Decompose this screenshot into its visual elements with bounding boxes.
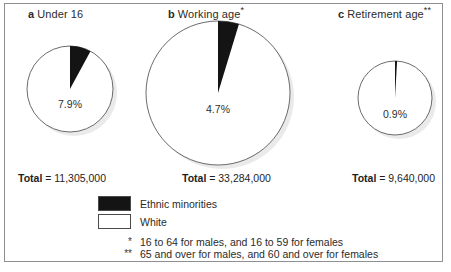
panel-title-text-c: Retirement age (347, 8, 424, 20)
figure-root: aUnder 16 7.9% Total = 11,305,000 bWorki… (0, 0, 451, 272)
pie-svg-c (356, 59, 440, 143)
footnote-mark-1: * (108, 236, 132, 247)
total-key-a: Total (18, 172, 42, 184)
pie-chart-a (25, 44, 119, 138)
panel-letter-a: a (28, 8, 34, 20)
total-label-a: Total = 11,305,000 (18, 172, 106, 184)
total-key-c: Total (352, 172, 376, 184)
footnote-text-1: 16 to 64 for males, and 16 to 59 for fem… (140, 236, 343, 248)
legend-label-ethnic-minorities: Ethnic minorities (140, 198, 217, 210)
pie-chart-b (144, 19, 298, 173)
pie-pct-label-a: 7.9% (40, 98, 100, 110)
legend-label-white: White (140, 216, 167, 228)
legend-swatch-ethnic-minorities (98, 196, 131, 211)
pie-pct-label-b: 4.7% (188, 103, 248, 115)
total-value-b: 33,284,000 (218, 172, 271, 184)
total-value-c: 9,640,000 (388, 172, 435, 184)
pie-svg-b (144, 19, 298, 173)
pie-chart-c (356, 59, 440, 143)
total-eq-b: = (206, 172, 218, 184)
footnote-text-2: 65 and over for males, and 60 and over f… (140, 248, 378, 260)
footnote-mark-2: ** (108, 248, 132, 259)
total-label-b: Total = 33,284,000 (182, 172, 271, 184)
total-value-a: 11,305,000 (54, 172, 106, 184)
panel-title-a: aUnder 16 (28, 8, 83, 20)
panel-title-c: cRetirement age** (338, 8, 431, 20)
total-key-b: Total (182, 172, 206, 184)
legend-swatch-white (98, 214, 131, 229)
panel-title-text-a: Under 16 (37, 8, 83, 20)
panel-title-sup-c: ** (424, 5, 431, 15)
total-eq-a: = (42, 172, 54, 184)
total-label-c: Total = 9,640,000 (352, 172, 435, 184)
panel-title-sup-b: * (240, 5, 244, 15)
pie-svg-a (25, 44, 119, 138)
panel-letter-c: c (338, 8, 344, 20)
total-eq-c: = (376, 172, 388, 184)
pie-pct-label-c: 0.9% (365, 108, 425, 120)
